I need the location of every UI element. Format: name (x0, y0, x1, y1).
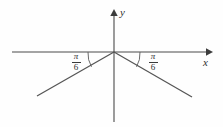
x-axis-label: x (203, 57, 208, 68)
right-angle-numerator: π (149, 52, 158, 61)
x-axis-arrowhead-icon (206, 48, 213, 56)
figure-canvas (0, 0, 223, 127)
right-angle-denominator: 6 (149, 63, 158, 72)
left-angle-numerator: π (72, 52, 81, 61)
math-figure: y x π 6 π 6 (0, 0, 223, 127)
left-angle-denominator: 6 (72, 63, 81, 72)
y-axis-label: y (120, 7, 125, 18)
right-angle-label: π 6 (143, 52, 163, 74)
left-angle-label: π 6 (66, 52, 86, 74)
right-angle-fraction: π 6 (149, 52, 158, 72)
y-axis-arrowhead-icon (110, 9, 117, 16)
left-angle-fraction: π 6 (72, 52, 81, 72)
